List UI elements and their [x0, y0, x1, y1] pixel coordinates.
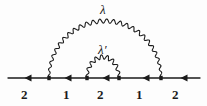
- fermion-arrowhead-5: [181, 75, 188, 82]
- segment-label-1: 2: [21, 88, 28, 101]
- fermion-arrowhead-1: [25, 75, 32, 82]
- segment-label-2: 1: [63, 88, 70, 101]
- vertex-v4: [159, 76, 162, 80]
- segment-label-4: 1: [136, 88, 143, 101]
- inner-photon-wavy-line: [86, 55, 120, 78]
- outer-photon-label: λ: [100, 3, 106, 16]
- feynman-diagram: λλ′ 21212: [0, 0, 207, 106]
- vertex-v3: [117, 76, 120, 80]
- vertex-v1: [47, 76, 50, 80]
- vertex-v2: [85, 76, 88, 80]
- segment-label-5: 2: [172, 88, 179, 101]
- fermion-arrowhead-3: [103, 75, 110, 82]
- segment-label-3: 2: [97, 88, 104, 101]
- fermion-arrowhead-2: [65, 75, 72, 82]
- inner-photon-label: λ′: [98, 43, 106, 56]
- fermion-arrowhead-4: [143, 75, 150, 82]
